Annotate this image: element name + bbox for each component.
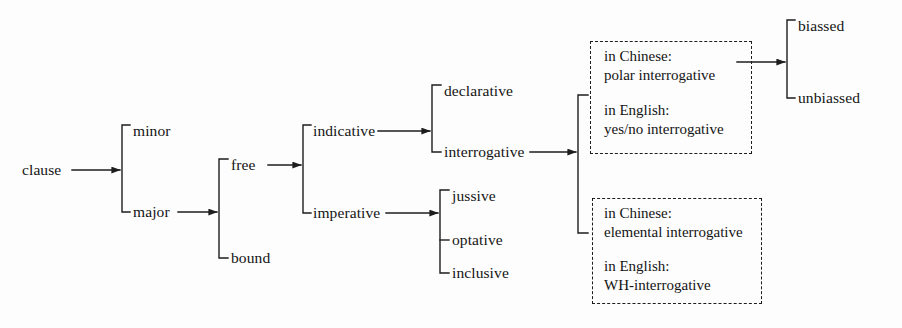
node-minor: minor [133, 123, 171, 139]
node-declarative: declarative [444, 83, 513, 99]
polar-box-english-label: in English: [604, 101, 669, 120]
elemental-box-chinese-term: elemental interrogative [604, 223, 743, 242]
system-network-diagram: clause minor major free bound indicative… [0, 0, 902, 328]
node-free: free [231, 157, 255, 173]
elemental-box-chinese-label: in Chinese: [604, 204, 672, 223]
bracket-free-bound [219, 159, 228, 258]
node-inclusive: inclusive [452, 265, 509, 281]
diagram-connector-lines [0, 0, 902, 328]
node-biassed: biassed [798, 18, 844, 34]
elemental-box-english-label: in English: [604, 257, 669, 276]
polar-box-chinese-term: polar interrogative [604, 66, 715, 85]
elemental-box-english-term: WH-interrogative [604, 276, 711, 295]
node-bound: bound [231, 250, 270, 266]
bracket-minor-major [122, 125, 130, 212]
bracket-jussive-optative-inclusive [440, 190, 449, 273]
node-clause: clause [22, 162, 61, 178]
node-interrogative: interrogative [444, 144, 525, 160]
node-jussive: jussive [452, 188, 496, 204]
node-major: major [133, 204, 170, 220]
node-unbiassed: unbiassed [798, 90, 860, 106]
node-indicative: indicative [313, 123, 375, 139]
polar-box-chinese-label: in Chinese: [604, 47, 672, 66]
node-imperative: imperative [313, 205, 380, 221]
bracket-indicative-imperative [303, 125, 311, 213]
bracket-interrogative-realizations [578, 95, 588, 233]
bracket-biassed-unbiassed [787, 20, 795, 98]
polar-box-english-term: yes/no interrogative [604, 120, 724, 139]
node-optative: optative [452, 232, 503, 248]
bracket-declarative-interrogative [432, 85, 441, 152]
